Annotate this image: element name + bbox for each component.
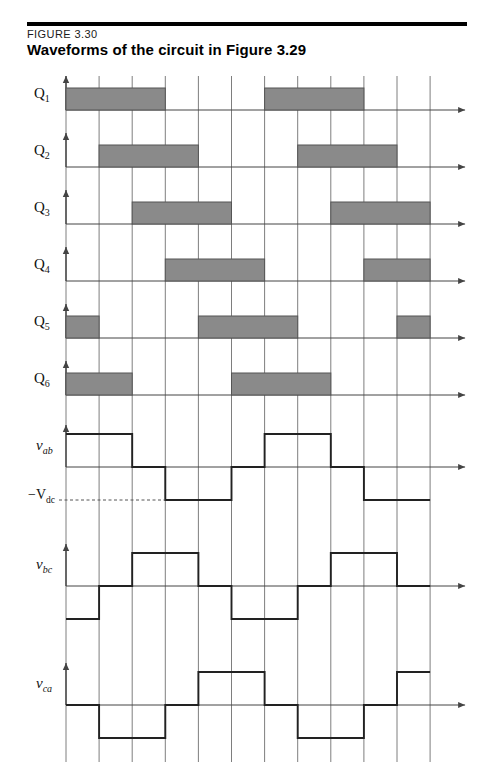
axis-arrow-x	[458, 107, 465, 113]
axis-arrow-x	[458, 164, 465, 170]
axis-arrow-y	[63, 663, 69, 670]
gate-pulse-q4	[364, 259, 430, 281]
gate-pulse-q2	[99, 145, 198, 167]
waveform-plot	[0, 0, 494, 772]
gate-pulse-q4	[165, 259, 264, 281]
axis-arrow-x	[458, 221, 465, 227]
axis-arrow-y	[63, 247, 69, 254]
gate-pulse-q5	[66, 316, 99, 338]
axis-arrow-y	[63, 133, 69, 140]
gate-pulse-q5	[198, 316, 297, 338]
axis-arrow-x	[458, 583, 465, 589]
axis-arrow-y	[63, 544, 69, 551]
gate-pulse-q3	[331, 202, 430, 224]
axis-arrow-y	[63, 425, 69, 432]
gate-pulse-q2	[298, 145, 397, 167]
axis-arrow-y	[63, 304, 69, 311]
gate-pulse-q6	[232, 373, 331, 395]
axis-arrow-x	[458, 464, 465, 470]
axis-arrow-y	[63, 190, 69, 197]
gate-pulse-q1	[66, 88, 165, 110]
gate-pulse-q5	[397, 316, 430, 338]
gate-pulse-q6	[66, 373, 132, 395]
axis-arrow-x	[458, 392, 465, 398]
gate-pulse-q3	[132, 202, 231, 224]
gate-pulse-q1	[265, 88, 364, 110]
axis-arrow-x	[458, 702, 465, 708]
axis-arrow-y	[63, 76, 69, 83]
axis-arrow-x	[458, 278, 465, 284]
axis-arrow-y	[63, 361, 69, 368]
axis-arrow-x	[458, 335, 465, 341]
figure-container: FIGURE 3.30 Waveforms of the circuit in …	[0, 0, 494, 772]
